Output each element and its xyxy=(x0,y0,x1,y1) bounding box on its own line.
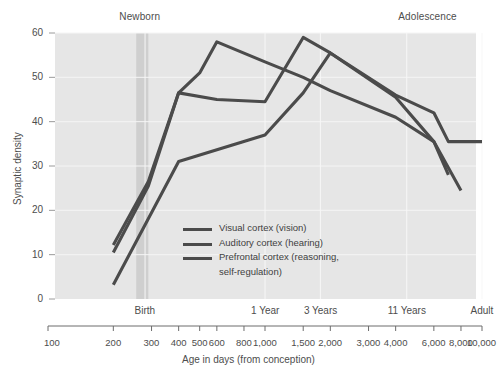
synaptic-density-chart: Synaptic density Newborn Adolescence 010… xyxy=(0,0,497,371)
legend-swatch xyxy=(183,257,212,260)
y-tick-label: 60 xyxy=(17,27,43,38)
stage-label: 1 Year xyxy=(251,305,279,316)
x-tick-label: 1,500 xyxy=(291,337,315,348)
legend-swatch xyxy=(183,228,212,231)
y-tick-label: 40 xyxy=(17,116,43,127)
stage-label: Birth xyxy=(135,305,156,316)
x-tick-label: 300 xyxy=(144,337,160,348)
x-tick-label: 2,000 xyxy=(318,337,342,348)
stage-label: 3 Years xyxy=(304,305,337,316)
legend-label: Prefrontal cortex (reasoning, xyxy=(219,251,339,262)
legend-label: Auditory cortex (hearing) xyxy=(219,237,323,248)
x-tick-label: 1,000 xyxy=(253,337,277,348)
y-tick-label: 30 xyxy=(17,160,43,171)
y-tick-label: 10 xyxy=(17,249,43,260)
x-tick-label: 100 xyxy=(44,337,60,348)
x-tick-label: 500 xyxy=(192,337,208,348)
y-tick-label: 50 xyxy=(17,71,43,82)
y-tick-label: 0 xyxy=(17,293,43,304)
x-tick-label: 400 xyxy=(171,337,187,348)
x-tick-label: 600 xyxy=(209,337,225,348)
y-tick-label: 20 xyxy=(17,204,43,215)
legend-label: self-regulation) xyxy=(219,266,282,277)
x-tick-label: 6,000 xyxy=(422,337,446,348)
stage-label: 11 Years xyxy=(388,305,426,316)
x-axis-title: Age in days (from conception) xyxy=(182,354,315,365)
stage-label: Adult xyxy=(471,305,494,316)
x-tick-label: 3,000 xyxy=(357,337,381,348)
legend-label: Visual cortex (vision) xyxy=(219,222,306,233)
x-tick-label: 800 xyxy=(236,337,252,348)
legend-swatch xyxy=(183,243,212,246)
x-tick-label: 4,000 xyxy=(384,337,408,348)
x-tick-label: 10,000 xyxy=(467,337,496,348)
x-tick-label: 200 xyxy=(105,337,121,348)
